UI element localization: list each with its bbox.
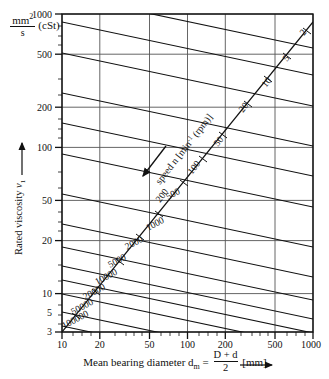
x-axis-title-sub: m	[194, 362, 200, 371]
x-axis-ticks	[62, 332, 313, 339]
speed-axis-label-tail: (rpm)]	[188, 112, 215, 142]
y-tick-50: 50	[42, 195, 52, 206]
y-tick-500: 500	[37, 49, 52, 60]
speed-label-500: 500	[164, 186, 181, 202]
speed-line-2	[62, 0, 313, 13]
y-axis-title-group: Rated viscosity ν1	[13, 143, 27, 255]
y-tick-100: 100	[37, 142, 52, 153]
y-tick-10: 10	[42, 288, 52, 299]
y-axis-tick-labels: 1000 500 200 100 50 20 10 5 3	[32, 9, 52, 337]
x-axis-title: Mean bearing diameter dm = D + d 2 [mm]	[40, 349, 310, 373]
y-axis-title: Rated viscosity	[13, 190, 24, 255]
speed-label-50: 50	[212, 134, 226, 148]
speed-label-2000: 2000	[123, 234, 145, 252]
x-axis-title-equals: =	[203, 356, 209, 368]
speed-label-1000: 1000	[144, 215, 166, 233]
x-axis-title-unit: [mm]	[242, 356, 266, 368]
y-axis-unit-numerator: mm2	[10, 12, 35, 27]
speed-axis-annotation: speed n [min-1 (rpm)]	[143, 112, 215, 187]
svg-text:speed n [min-1 (rpm)]: speed n [min-1 (rpm)]	[153, 112, 215, 187]
x-axis-title-prefix: Mean bearing diameter d	[83, 356, 193, 368]
x-axis-title-fraction-denominator: 2	[214, 362, 238, 374]
y-axis-unit-fraction: mm2 s	[10, 12, 35, 39]
y-tick-200: 200	[37, 102, 52, 113]
y-axis-unit-exponent: 2	[29, 12, 33, 21]
rated-viscosity-nomogram: 2 5 10 20 50 100 200 500 1000 2000 5000 …	[0, 0, 329, 379]
y-axis-unit-block: mm2 s (cSt)	[6, 12, 64, 39]
x-axis-title-fraction: D + d 2	[214, 349, 238, 373]
y-tick-5: 5	[47, 307, 52, 318]
y-tick-3: 3	[47, 326, 52, 337]
speed-label-10: 10	[260, 75, 274, 89]
y-tick-20: 20	[42, 235, 52, 246]
y-axis-ticks	[55, 14, 62, 332]
y-axis-unit-denominator: s	[10, 27, 35, 39]
x-axis-title-fraction-numerator: D + d	[214, 349, 238, 362]
svg-text:Rated viscosity ν1: Rated viscosity ν1	[13, 179, 27, 255]
y-axis-unit-cst: (cSt)	[38, 20, 59, 32]
y-axis-symbol-sub: 1	[19, 179, 27, 183]
